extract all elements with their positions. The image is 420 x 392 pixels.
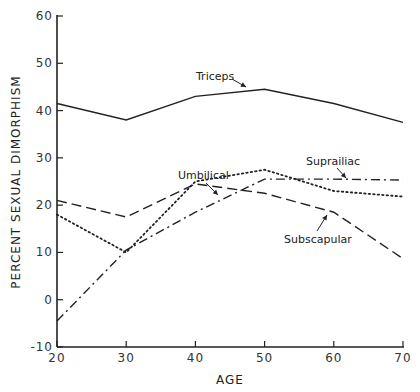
x-tick-label: 60 — [325, 351, 342, 365]
y-tick-label: 50 — [36, 56, 53, 70]
series-line-suprailiac — [57, 179, 403, 321]
y-tick-label: 10 — [36, 245, 53, 259]
y-tick-label: 0 — [44, 293, 53, 307]
y-tick-label: 40 — [36, 104, 53, 118]
x-tick-label: 40 — [187, 351, 204, 365]
series-line-triceps — [57, 89, 403, 122]
x-tick-label: 70 — [394, 351, 411, 365]
x-tick-label: 30 — [118, 351, 135, 365]
series-labels: TricepsUmbilicalSuprailiacSubscapular — [178, 70, 360, 246]
series-label-triceps: Triceps — [195, 70, 234, 83]
series-label-suprailiac: Suprailiac — [306, 155, 360, 168]
series-label-umbilical: Umbilical — [178, 169, 229, 182]
y-tick-label: 20 — [36, 198, 53, 212]
x-tick-label: 20 — [48, 351, 65, 365]
line-chart: -100102030405060203040506070 TricepsUmbi… — [0, 0, 420, 392]
x-tick-label: 50 — [256, 351, 273, 365]
series-lines — [57, 89, 403, 321]
y-axis-title: PERCENT SEXUAL DIMORPHISM — [9, 75, 23, 288]
x-axis-title: AGE — [216, 373, 244, 387]
series-label-subscapular: Subscapular — [284, 233, 352, 246]
y-tick-label: 60 — [36, 9, 53, 23]
y-tick-label: 30 — [36, 151, 53, 165]
